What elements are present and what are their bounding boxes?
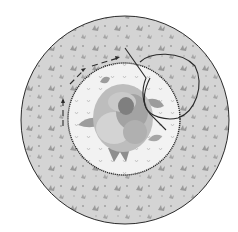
illustration-svg <box>0 0 238 232</box>
applique-diagram <box>0 0 238 232</box>
